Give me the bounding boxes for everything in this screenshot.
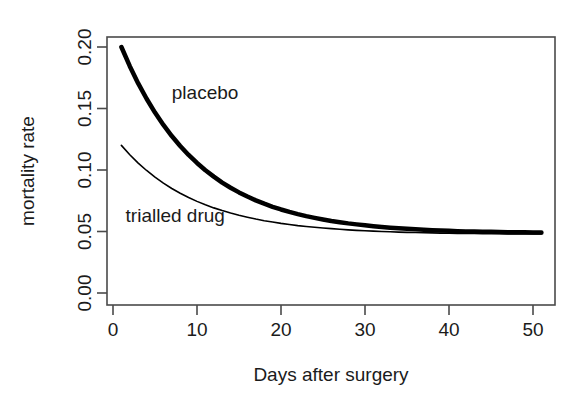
x-tick-label: 30 — [354, 319, 375, 340]
y-tick-label: 0.20 — [74, 29, 95, 66]
x-tick-label: 40 — [438, 319, 459, 340]
y-tick-label: 0.10 — [74, 152, 95, 189]
x-tick-label: 0 — [108, 319, 119, 340]
x-tick-label: 50 — [522, 319, 543, 340]
y-tick-label: 0.00 — [74, 275, 95, 312]
y-tick-label: 0.15 — [74, 90, 95, 127]
x-tick-label: 10 — [186, 319, 207, 340]
y-tick-label: 0.05 — [74, 213, 95, 250]
chart-canvas: 0.000.050.100.150.20 01020304050 placebo… — [0, 0, 587, 393]
x-tick-label: 20 — [270, 319, 291, 340]
chart-figure: 0.000.050.100.150.20 01020304050 placebo… — [0, 0, 587, 393]
curve-label-trialled-drug: trialled drug — [126, 205, 225, 226]
x-axis-title: Days after surgery — [253, 364, 409, 385]
curve-label-placebo: placebo — [172, 82, 239, 103]
y-axis-title: mortality rate — [17, 116, 38, 226]
